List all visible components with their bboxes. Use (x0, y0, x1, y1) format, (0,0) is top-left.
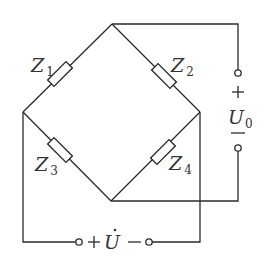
source-voltage-label: U (104, 231, 121, 253)
output-terminal-minus (235, 145, 241, 151)
output-terminals: U0 (228, 70, 253, 151)
z4-label: Z4 (168, 152, 192, 177)
source-terminal-plus (76, 239, 82, 245)
source-terminal-minus (146, 239, 152, 245)
z3-label: Z3 (34, 153, 58, 178)
output-voltage-label: U0 (228, 106, 253, 131)
source-terminals: U (76, 229, 152, 253)
bridge-circuit-diagram: Z1 Z2 Z3 Z4 U0 U (0, 0, 265, 264)
z2-label: Z2 (170, 54, 194, 79)
output-wires (111, 24, 238, 201)
z1-label: Z1 (30, 54, 54, 79)
impedance-z2: Z2 (152, 54, 194, 88)
impedance-z3: Z3 (34, 138, 72, 178)
impedance-z1: Z1 (30, 54, 72, 86)
output-terminal-plus (235, 70, 241, 76)
phasor-dot (114, 229, 117, 232)
impedance-z4: Z4 (151, 140, 193, 177)
